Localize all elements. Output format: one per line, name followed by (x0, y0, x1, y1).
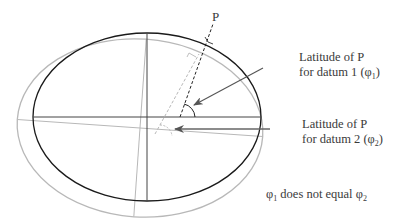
note-sub2: 2 (363, 194, 367, 203)
phi1-symbol: φ (365, 65, 372, 79)
datum1-label-prefix: for datum 1 ( (299, 65, 365, 79)
datum1-label-line1: Latitude of P (299, 50, 380, 65)
datum2-label-suffix: ) (379, 132, 383, 146)
phi2-symbol: φ (368, 132, 375, 146)
datum1-angle-arc (184, 104, 195, 117)
inequality-note: φ1 does not equal φ2 (266, 187, 367, 206)
datum1-right-angle-mark (205, 37, 213, 44)
datum2-right-angle-mark (187, 53, 196, 57)
note-phi2: φ (356, 187, 363, 201)
datum1-label-line2: for datum 1 (φ1) (299, 65, 380, 84)
datum1-label-suffix: ) (376, 65, 380, 79)
datum2-latitude-label: Latitude of P for datum 2 (φ2) (302, 117, 383, 151)
datum1-latitude-label: Latitude of P for datum 1 (φ1) (299, 50, 380, 84)
datum2-label-prefix: for datum 2 ( (302, 132, 368, 146)
point-p-label: P (212, 9, 219, 24)
note-text: does not equal (277, 187, 355, 201)
datum2-label-line2: for datum 2 (φ2) (302, 132, 383, 151)
datum2-label-line1: Latitude of P (302, 117, 383, 132)
datum2-angle-arc (160, 125, 172, 136)
datum2-normal-dashed (155, 54, 199, 134)
